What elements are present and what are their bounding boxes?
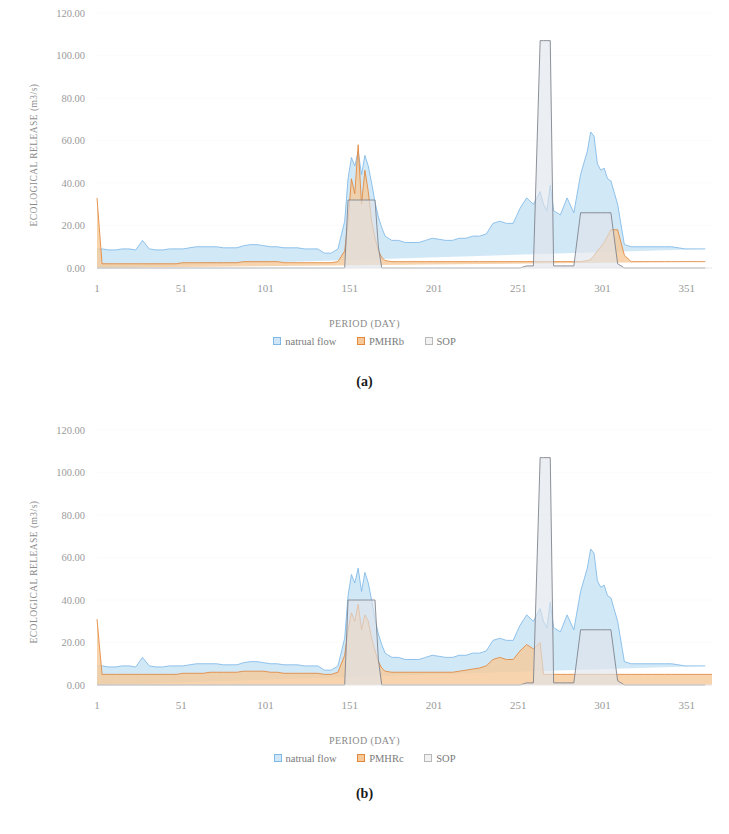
y-axis-title-a: ECOLOGICAL RELEASE (m3/s): [29, 55, 39, 255]
panel-label-a: (a): [0, 374, 729, 390]
legend-label-sop-b: SOP: [436, 753, 455, 764]
svg-text:20.00: 20.00: [61, 220, 85, 231]
chart-svg-a: 0.0020.0040.0060.0080.00100.00120.001511…: [0, 0, 729, 330]
legend-swatch-pmhrc-icon: [357, 754, 365, 762]
chart-plot-area-b: 0.0020.0040.0060.0080.00100.00120.001511…: [0, 417, 729, 747]
svg-text:60.00: 60.00: [61, 135, 85, 146]
legend-b: natrual flow PMHRc SOP: [0, 751, 729, 764]
svg-text:351: 351: [678, 699, 695, 711]
figure-container: 0.0020.0040.0060.0080.00100.00120.001511…: [0, 0, 729, 834]
svg-text:351: 351: [678, 282, 695, 294]
svg-text:201: 201: [426, 282, 443, 294]
legend-swatch-sop-icon-a: [425, 337, 433, 345]
svg-text:0.00: 0.00: [67, 263, 85, 274]
svg-text:101: 101: [257, 699, 274, 711]
legend-label-natural-flow-a: natrual flow: [285, 336, 336, 347]
legend-item-sop-b: SOP: [424, 752, 455, 764]
legend-swatch-pmhrb-icon: [357, 337, 365, 345]
chart-panel-b: 0.0020.0040.0060.0080.00100.00120.001511…: [0, 417, 729, 834]
svg-text:80.00: 80.00: [61, 510, 85, 521]
x-axis-title-a: PERIOD (DAY): [0, 318, 729, 329]
svg-text:301: 301: [594, 282, 611, 294]
svg-text:1: 1: [94, 282, 100, 294]
chart-panel-a: 0.0020.0040.0060.0080.00100.00120.001511…: [0, 0, 729, 417]
svg-text:101: 101: [257, 282, 274, 294]
svg-text:151: 151: [341, 282, 358, 294]
svg-text:40.00: 40.00: [61, 595, 85, 606]
x-axis-title-b: PERIOD (DAY): [0, 735, 729, 746]
svg-text:100.00: 100.00: [56, 50, 85, 61]
legend-item-pmhrb: PMHRb: [357, 335, 404, 347]
legend-item-pmhrc: PMHRc: [357, 752, 403, 764]
svg-text:40.00: 40.00: [61, 178, 85, 189]
legend-swatch-natural-flow-icon-b: [274, 754, 282, 762]
svg-text:1: 1: [94, 699, 100, 711]
svg-text:80.00: 80.00: [61, 93, 85, 104]
svg-text:120.00: 120.00: [56, 425, 85, 436]
svg-text:51: 51: [176, 282, 187, 294]
svg-text:0.00: 0.00: [67, 680, 85, 691]
svg-text:20.00: 20.00: [61, 637, 85, 648]
legend-a: natrual flow PMHRb SOP: [0, 334, 729, 347]
chart-svg-b: 0.0020.0040.0060.0080.00100.00120.001511…: [0, 417, 729, 747]
svg-text:301: 301: [594, 699, 611, 711]
legend-label-natural-flow-b: natrual flow: [286, 753, 337, 764]
legend-label-pmhrb: PMHRb: [369, 336, 404, 347]
svg-text:251: 251: [510, 282, 527, 294]
legend-item-natural-flow-a: natrual flow: [273, 335, 336, 347]
svg-text:201: 201: [426, 699, 443, 711]
legend-swatch-natural-flow-icon: [273, 337, 281, 345]
legend-swatch-sop-icon-b: [424, 754, 432, 762]
legend-item-natural-flow-b: natrual flow: [274, 752, 337, 764]
svg-text:120.00: 120.00: [56, 8, 85, 19]
y-axis-title-b: ECOLOGICAL RELEASE (m3/s): [29, 472, 39, 672]
legend-label-pmhrc: PMHRc: [369, 753, 403, 764]
panel-label-b: (b): [0, 786, 729, 802]
legend-label-sop-a: SOP: [437, 336, 456, 347]
legend-item-sop-a: SOP: [425, 335, 456, 347]
svg-text:51: 51: [176, 699, 187, 711]
svg-text:151: 151: [341, 699, 358, 711]
svg-text:251: 251: [510, 699, 527, 711]
chart-plot-area-a: 0.0020.0040.0060.0080.00100.00120.001511…: [0, 0, 729, 330]
svg-text:60.00: 60.00: [61, 552, 85, 563]
svg-text:100.00: 100.00: [56, 467, 85, 478]
